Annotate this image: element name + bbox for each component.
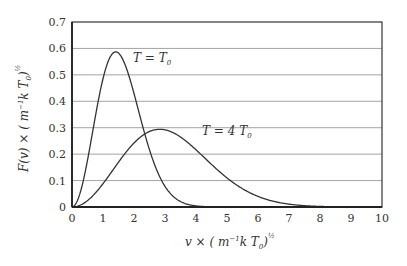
x-tick-label: 2 [131, 212, 138, 225]
y-tick-label: 0.7 [49, 16, 67, 29]
curve-t-4t0 [72, 129, 382, 207]
x-axis-label: v × ( m−1k T0)½ [185, 232, 275, 251]
x-tick-label: 3 [162, 212, 169, 225]
annotation-t-t0: T = T0 [133, 51, 172, 67]
y-tick-label: 0.4 [49, 95, 67, 108]
x-tick-label: 8 [317, 212, 324, 225]
x-tick-label: 5 [224, 212, 231, 225]
y-tick-label: 0.6 [49, 42, 67, 55]
maxwell-distribution-chart: 00.10.20.30.40.50.60.7 012345678910 T = … [0, 0, 407, 266]
y-tick-labels: 00.10.20.30.40.50.60.7 [49, 16, 67, 214]
y-tick-label: 0.5 [49, 69, 67, 82]
x-tick-label: 9 [348, 212, 355, 225]
x-tick-label: 7 [286, 212, 293, 225]
x-tick-label: 10 [375, 212, 389, 225]
x-tick-label: 6 [255, 212, 262, 225]
annotation-t-4t0: T = 4 T0 [202, 124, 252, 140]
y-tick-label: 0.2 [49, 148, 67, 161]
y-tick-label: 0.1 [49, 175, 67, 188]
x-tick-labels: 012345678910 [69, 212, 390, 225]
x-tick-label: 0 [69, 212, 76, 225]
y-axis-label: F(v) × ( m−1k T0)½ [14, 64, 33, 173]
gridlines [72, 48, 382, 180]
y-tick-label: 0.3 [49, 122, 67, 135]
x-tick-label: 1 [100, 212, 107, 225]
y-tick-label: 0 [59, 201, 66, 214]
plot-frame [72, 22, 382, 207]
x-tick-label: 4 [193, 212, 200, 225]
